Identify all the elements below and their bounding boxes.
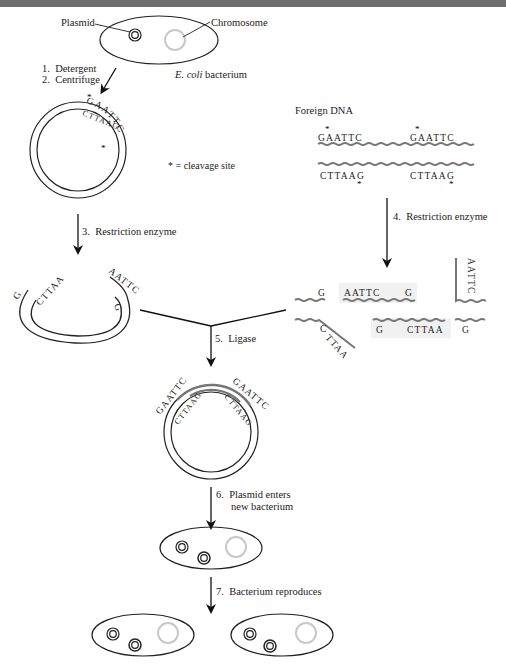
- svg-text:G: G: [405, 288, 413, 298]
- svg-text:AATTC: AATTC: [344, 288, 381, 298]
- svg-text:G: G: [112, 302, 124, 313]
- bacterium-species: E. coli: [175, 69, 202, 80]
- step-4-label: 4. Restriction enzyme: [393, 211, 487, 223]
- arrow-extract: [103, 68, 116, 90]
- cut-plasmid: G CTTAA AATTC G: [11, 266, 142, 343]
- step-2-label: 2. Centrifuge: [42, 74, 100, 86]
- daughter-bacterium-right: [231, 614, 333, 656]
- step-7-number: 7.: [216, 586, 224, 597]
- foreign-dna: GAATTC GAATTC CTTAAG CTTAAG * * * *: [318, 124, 474, 189]
- recombinant-plasmid: GAATTC GAATTC CTTAAG CTTAAG: [154, 375, 272, 479]
- step-5-label: 5. Ligase: [215, 333, 256, 345]
- chromosome-label: Chromosome: [211, 17, 268, 29]
- step-3-label: 3. Restriction enzyme: [82, 226, 176, 238]
- bacterium-label: E. coli bacterium: [175, 69, 247, 81]
- cleavage-site-note: * = cleavage site: [168, 160, 235, 172]
- plasmid-label: Plasmid: [61, 17, 95, 29]
- svg-text:*: *: [415, 124, 420, 134]
- svg-text:CTTAA: CTTAA: [407, 325, 444, 335]
- step-4-number: 4.: [393, 211, 401, 222]
- step-6-label: 6. Plasmid enters new bacterium: [216, 489, 293, 513]
- new-bacterium: [160, 527, 262, 569]
- step-2-number: 2.: [42, 74, 50, 85]
- step-7-label: 7. Bacterium reproduces: [216, 586, 322, 598]
- svg-text:*: *: [101, 143, 106, 153]
- svg-text:G: G: [462, 325, 470, 335]
- bacterium-word: bacterium: [202, 69, 247, 80]
- step-1-number: 1.: [42, 63, 50, 74]
- chromosome-icon: [165, 30, 185, 50]
- step-6-number: 6.: [216, 489, 224, 500]
- step-3-number: 3.: [82, 226, 90, 237]
- isolated-plasmid: G A A T T C CTTAAG * *: [30, 92, 127, 198]
- source-bacterium: [95, 16, 218, 64]
- step-3-text: Restriction enzyme: [95, 226, 176, 237]
- svg-text:*: *: [325, 124, 330, 134]
- step-6-text: Plasmid enters: [229, 489, 291, 500]
- svg-text:CTTAA: CTTAA: [34, 273, 66, 307]
- step-5-text: Ligase: [228, 333, 256, 344]
- step-1-text: Detergent: [55, 63, 96, 74]
- svg-text:*: *: [87, 92, 92, 102]
- step-5-number: 5.: [215, 333, 223, 344]
- step-2-text: Centrifuge: [55, 74, 100, 85]
- step-4-text: Restriction enzyme: [406, 211, 487, 222]
- svg-text:C: C: [320, 324, 328, 334]
- plasmid-icon: [129, 29, 141, 41]
- svg-text:G: G: [376, 325, 384, 335]
- svg-text:AATTC: AATTC: [466, 258, 476, 295]
- dna-fragments: G AATTC G AATTC C TTAA G CTTAA G: [295, 258, 486, 361]
- daughter-bacterium-left: [92, 614, 194, 656]
- foreign-dna-label: Foreign DNA: [295, 105, 353, 117]
- svg-text:GAATTC: GAATTC: [410, 133, 455, 143]
- svg-text:GAATTC: GAATTC: [318, 133, 363, 143]
- svg-text:*: *: [449, 179, 454, 189]
- svg-text:TTAA: TTAA: [324, 333, 351, 362]
- ligation-join: [140, 310, 286, 362]
- step-6-text-line2: new bacterium: [216, 501, 293, 512]
- svg-text:G: G: [318, 288, 326, 298]
- step-7-text: Bacterium reproduces: [229, 586, 321, 597]
- svg-text:G: G: [11, 289, 24, 301]
- svg-text:*: *: [357, 179, 362, 189]
